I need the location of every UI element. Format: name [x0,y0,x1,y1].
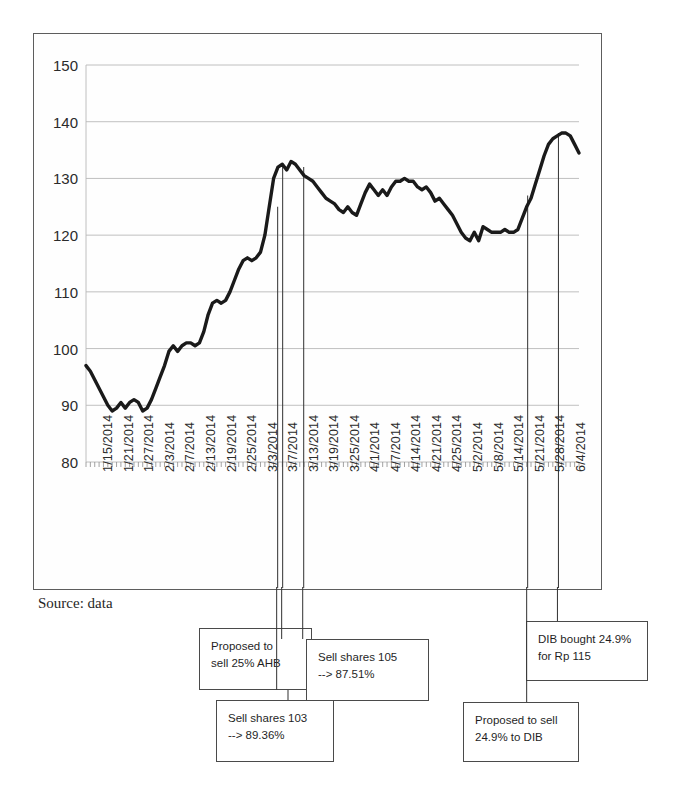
y-axis-tick-label: 80 [34,455,78,470]
x-axis-tick-label: 4/14/2014 [409,415,423,472]
annotation-marker-lines [278,133,559,588]
annotation-line: Proposed to [211,638,302,655]
annotation-box-sell-shares-105: Sell shares 105 --> 87.51% [306,639,429,701]
annotation-box-sell-shares-103: Sell shares 103 --> 89.36% [216,700,334,762]
chart-frame: 8090100110120130140150 1/15/20141/21/201… [33,33,602,590]
x-axis-tick-label: 1/27/2014 [142,415,156,472]
x-axis-tick-label: 4/21/2014 [430,415,444,472]
y-axis-tick-label: 140 [34,115,78,130]
annotation-box-dib-bought: DIB bought 24.9% for Rp 115 [526,621,648,681]
annotation-line: for Rp 115 [538,648,638,665]
line-chart-canvas [34,34,601,589]
x-axis-tick-label: 2/25/2014 [245,415,259,472]
y-axis-tick-label: 110 [34,285,78,300]
y-axis-tick-label: 150 [34,58,78,73]
x-axis-tick-label: 5/8/2014 [492,422,506,472]
x-axis-tick-label: 4/1/2014 [368,422,382,472]
x-axis-tick-label: 5/21/2014 [533,415,547,472]
x-axis-tick-label: 4/7/2014 [389,422,403,472]
annotation-line: Sell shares 105 [318,649,419,666]
x-axis-tick-label: 2/19/2014 [225,415,239,472]
x-axis-tick-label: 2/7/2014 [183,422,197,472]
source-note: Source: data [38,595,113,612]
x-axis-tick-label: 3/19/2014 [327,415,341,472]
annotation-line: 24.9% to DIB [475,729,569,746]
annotation-line: DIB bought 24.9% [538,631,638,648]
x-axis-tick-label: 3/7/2014 [286,422,300,472]
x-axis-tick-label: 6/4/2014 [574,422,588,472]
x-axis-tick-label: 1/21/2014 [122,415,136,472]
gridlines [86,65,579,462]
annotation-line: Sell shares 103 [228,710,324,727]
x-axis-tick-label: 4/25/2014 [450,415,464,472]
x-axis-tick-label: 3/13/2014 [307,415,321,472]
x-axis-tick-label: 1/15/2014 [101,415,115,472]
y-axis-tick-label: 100 [34,342,78,357]
y-axis-tick-label: 90 [34,398,78,413]
x-axis-tick-label: 3/25/2014 [348,415,362,472]
annotation-line: --> 89.36% [228,727,324,744]
y-axis-tick-label: 120 [34,228,78,243]
x-axis-tick-label: 2/3/2014 [163,422,177,472]
x-axis-tick-label: 3/3/2014 [266,422,280,472]
x-axis-tick-label: 5/2/2014 [471,422,485,472]
annotation-line: Proposed to sell [475,712,569,729]
x-axis-tick-label: 2/13/2014 [204,415,218,472]
annotation-box-proposed-to-sell-25-ahb: Proposed to sell 25% AHB [199,628,312,690]
annotation-line: sell 25% AHB [211,655,302,672]
x-axis-tick-label: 5/14/2014 [512,415,526,472]
annotation-box-proposed-to-sell-dib: Proposed to sell 24.9% to DIB [463,702,579,762]
y-axis-tick-label: 130 [34,171,78,186]
x-axis-tick-label: 5/28/2014 [553,415,567,472]
annotation-line: --> 87.51% [318,666,419,683]
price-series-line [86,133,579,411]
